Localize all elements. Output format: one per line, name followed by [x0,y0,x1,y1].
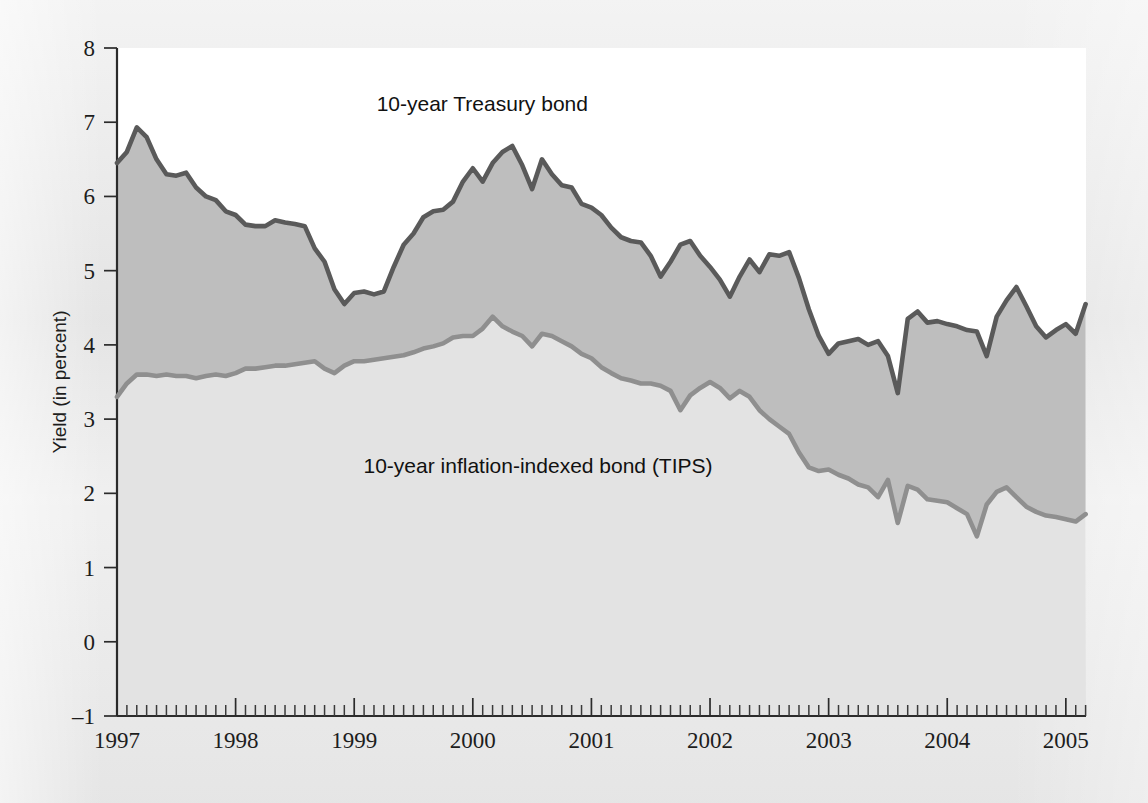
y-tick-label: 8 [84,36,96,61]
y-axis-title: Yield (in percent) [49,311,70,454]
chart-canvas: –101234567819971998199920002001200220032… [0,0,1148,803]
y-tick-label: 5 [84,259,96,284]
x-tick-label: 2003 [806,728,852,753]
x-tick-label: 2004 [924,728,971,753]
y-tick-label: 0 [84,630,96,655]
axis-titles: Yield (in percent) [49,311,70,454]
x-tick-label: 2002 [687,728,733,753]
x-tick-label: 1999 [331,728,377,753]
x-tick-label: 2005 [1043,728,1089,753]
y-tick-label: 4 [84,333,96,358]
yield-chart-figure: –101234567819971998199920002001200220032… [0,0,1148,803]
x-tick-label: 1998 [213,728,259,753]
x-tick-label: 2000 [450,728,496,753]
y-tick-label: –1 [71,704,95,729]
y-tick-label: 1 [84,556,96,581]
annotation-tips-bond: 10-year inflation-indexed bond (TIPS) [364,454,713,477]
x-tick-label: 2001 [568,728,614,753]
y-tick-label: 2 [84,481,96,506]
y-tick-label: 7 [84,110,96,135]
y-tick-label: 3 [84,407,96,432]
x-tick-label: 1997 [94,728,140,753]
annotation-treasury-bond: 10-year Treasury bond [377,92,588,115]
y-tick-label: 6 [84,184,96,209]
